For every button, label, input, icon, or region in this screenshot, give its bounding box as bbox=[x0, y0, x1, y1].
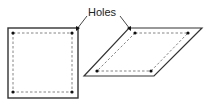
hole-dot bbox=[11, 31, 14, 34]
hole-dot bbox=[133, 31, 136, 34]
hole-dot bbox=[149, 69, 152, 72]
parallelogram-shape bbox=[84, 28, 202, 76]
hole-dot bbox=[186, 31, 189, 34]
hole-dot bbox=[95, 69, 98, 72]
square-shape bbox=[8, 28, 78, 98]
hole-dot bbox=[11, 90, 14, 93]
leader-lines bbox=[76, 16, 131, 31]
holes-label: Holes bbox=[88, 7, 116, 18]
hole-dot bbox=[70, 90, 73, 93]
hole-dot bbox=[70, 31, 73, 34]
